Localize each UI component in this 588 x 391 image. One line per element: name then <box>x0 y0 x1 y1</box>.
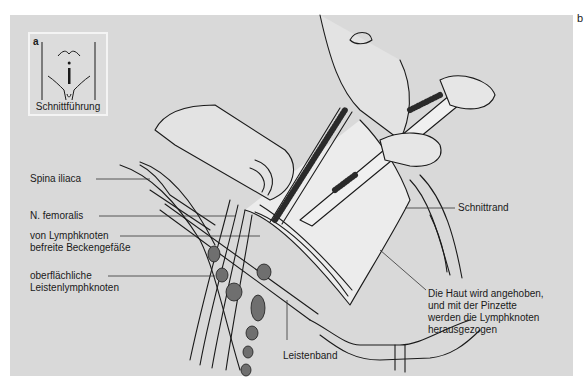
label-haut-1: Die Haut wird angehoben, <box>428 288 544 300</box>
inset-caption: Schnittführung <box>30 101 106 112</box>
inset-incision-diagram: a Schnittführung <box>28 32 108 116</box>
label-beckengefaesse-1: von Lymphknoten <box>30 230 109 242</box>
label-lymphknoten-1: oberflächliche <box>30 270 92 282</box>
label-leistenband: Leistenband <box>283 350 338 362</box>
label-spina-iliaca: Spina iliaca <box>30 173 81 185</box>
label-beckengefaesse-2: befreite Beckengefäße <box>30 242 131 254</box>
label-lymphknoten-2: Leistenlymphknoten <box>30 282 119 294</box>
label-schnittrand: Schnittrand <box>458 202 509 214</box>
label-haut-3: werden die Lymphknoten <box>428 312 539 324</box>
label-haut-2: und mit der Pinzette <box>428 300 517 312</box>
label-haut-4: herausgezogen <box>428 324 497 336</box>
label-n-femoralis: N. femoralis <box>30 210 83 222</box>
leader-haut <box>380 250 426 290</box>
